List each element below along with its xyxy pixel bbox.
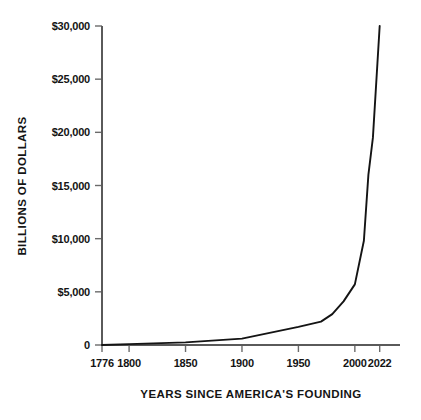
y-tick-label: $5,000	[58, 286, 91, 298]
y-tick-label: $20,000	[52, 126, 90, 138]
axis-lines	[102, 26, 400, 345]
y-tick-label: $10,000	[52, 233, 90, 245]
national-debt-line-chart: 0$5,000$10,000$15,000$20,000$25,000$30,0…	[0, 0, 421, 420]
y-tick-label: $15,000	[52, 180, 90, 192]
chart-container: 0$5,000$10,000$15,000$20,000$25,000$30,0…	[0, 0, 421, 420]
x-tick-label: 1900	[230, 357, 254, 369]
plot-area: 0$5,000$10,000$15,000$20,000$25,000$30,0…	[16, 20, 400, 400]
data-series-line	[102, 26, 380, 345]
y-axis-ticks: 0$5,000$10,000$15,000$20,000$25,000$30,0…	[52, 20, 102, 351]
x-tick-label: 1776	[90, 357, 114, 369]
x-axis-title: YEARS SINCE AMERICA'S FOUNDING	[140, 388, 361, 400]
x-axis-ticks: 1776180018501900195020002022	[90, 345, 391, 369]
x-tick-label: 1950	[287, 357, 311, 369]
y-tick-label: $30,000	[52, 20, 90, 32]
y-tick-label: $25,000	[52, 73, 90, 85]
x-tick-label: 1850	[174, 357, 198, 369]
x-tick-label: 2022	[368, 357, 392, 369]
x-tick-label: 2000	[343, 357, 367, 369]
y-tick-label: 0	[84, 339, 90, 351]
y-axis-title: BILLIONS OF DOLLARS	[16, 116, 28, 255]
x-tick-label: 1800	[117, 357, 141, 369]
